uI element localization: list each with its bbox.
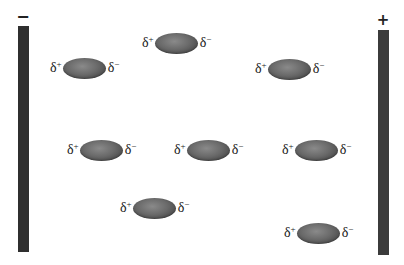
molecule-ellipse [133, 198, 176, 219]
polar-molecule: δ+ δ− [67, 139, 136, 161]
partial-positive-label: δ+ [67, 143, 79, 157]
partial-negative-label: δ− [125, 143, 137, 157]
molecule-ellipse [155, 33, 198, 54]
partial-negative-label: δ− [342, 226, 354, 240]
polar-molecule: δ+ δ− [255, 58, 324, 80]
partial-positive-label: δ+ [50, 61, 62, 75]
molecule-ellipse [80, 140, 123, 161]
partial-negative-label: δ− [200, 36, 212, 50]
molecule-ellipse [295, 140, 338, 161]
polar-molecule: δ+ δ− [284, 222, 353, 244]
partial-negative-label: δ− [178, 201, 190, 215]
partial-negative-label: δ− [108, 61, 120, 75]
partial-negative-label: δ− [313, 62, 325, 76]
positive-plate [378, 30, 389, 255]
molecule-ellipse [187, 140, 230, 161]
partial-negative-label: δ− [232, 143, 244, 157]
partial-positive-label: δ+ [255, 62, 267, 76]
polar-molecule: δ+ δ− [174, 139, 243, 161]
partial-positive-label: δ+ [284, 226, 296, 240]
molecule-ellipse [268, 59, 311, 80]
partial-negative-label: δ− [340, 143, 352, 157]
partial-positive-label: δ+ [174, 143, 186, 157]
molecule-ellipse [63, 58, 106, 79]
polar-molecule: δ+ δ− [142, 32, 211, 54]
polar-molecule: δ+ δ− [50, 57, 119, 79]
polar-molecule: δ+ δ− [282, 139, 351, 161]
positive-sign: + [376, 13, 390, 28]
negative-plate [18, 26, 29, 252]
partial-positive-label: δ+ [142, 36, 154, 50]
partial-positive-label: δ+ [282, 143, 294, 157]
negative-sign: − [16, 9, 30, 25]
partial-positive-label: δ+ [120, 201, 132, 215]
polar-molecule: δ+ δ− [120, 197, 189, 219]
molecule-ellipse [297, 223, 340, 244]
